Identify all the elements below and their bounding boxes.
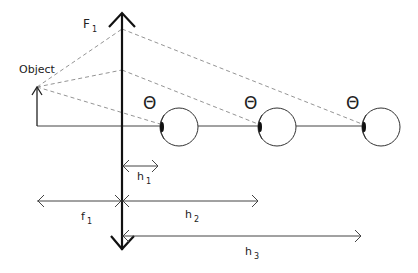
h2-label: h2 [185, 209, 199, 220]
h1-label: h1 [137, 171, 151, 182]
theta-label-3: Θ [346, 95, 359, 112]
eye-2 [258, 108, 296, 146]
eye-1 [160, 108, 198, 146]
lens-arrow [109, 13, 135, 250]
h3-label: h3 [245, 246, 259, 257]
focal-point-label: F1 [83, 18, 97, 30]
ray-lines [37, 29, 362, 124]
theta-label-1: Θ [143, 95, 156, 112]
eye-3 [362, 108, 400, 146]
f1-h2-dimension [37, 195, 258, 207]
object-label: Object [19, 64, 55, 75]
diagram-canvas [0, 0, 418, 273]
f1-label: f1 [81, 211, 92, 222]
object-arrow [32, 87, 42, 126]
theta-label-2: Θ [244, 95, 257, 112]
h3-dimension [122, 230, 361, 242]
magnifier-diagram: F1 Object Θ Θ Θ h1 f1 h2 h3 [0, 0, 418, 273]
